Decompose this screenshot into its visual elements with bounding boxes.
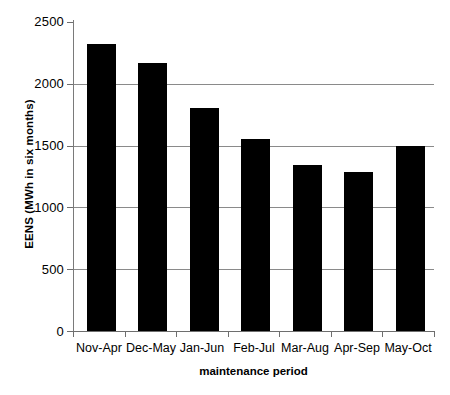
bar-mar-aug [293,165,322,331]
x-category-label-nov-apr: Nov-Apr [73,341,125,355]
x-axis-line [73,331,435,332]
y-tick-label-1000-wrap: 1000 [16,201,64,214]
x-tick-mark-1 [125,331,126,337]
plot-area [73,22,434,331]
x-tick-mark-3 [228,331,229,337]
x-category-label-dec-may: Dec-May [125,341,177,355]
x-tick-mark-4 [279,331,280,337]
bar-jan-jun [190,108,219,331]
x-category-label-may-oct: May-Oct [382,341,434,355]
bar-feb-jul [241,139,270,331]
y-tick-label-500-wrap: 500 [16,263,64,276]
bar-chart-figure: EENS (MWh in six months) 2500 2000 1500 … [0,0,450,395]
bar-nov-apr [87,44,116,331]
y-tick-label-2500-wrap: 2500 [16,15,64,28]
x-tick-mark-0 [73,331,74,337]
x-tick-mark-2 [176,331,177,337]
y-tick-label-500: 500 [20,263,64,276]
y-tick-label-2000-wrap: 2000 [16,77,64,90]
y-tick-label-2000: 2000 [20,77,64,90]
x-tick-mark-5 [331,331,332,337]
bar-dec-may [138,63,167,331]
x-tick-mark-6 [382,331,383,337]
bar-apr-sep [344,172,373,331]
y-tick-label-1500: 1500 [20,139,64,152]
y-tick-label-1000: 1000 [20,201,64,214]
x-category-label-mar-aug: Mar-Aug [279,341,331,355]
x-category-label-jan-jun: Jan-Jun [176,341,228,355]
y-tick-label-0: 0 [20,325,64,338]
x-tick-mark-7 [434,331,435,337]
x-category-label-apr-sep: Apr-Sep [331,341,383,355]
y-tick-label-2500: 2500 [20,15,64,28]
x-axis-title: maintenance period [73,365,434,377]
figure-caption [73,387,443,395]
y-axis-title: EENS (MWh in six months) [23,79,35,269]
y-tick-label-1500-wrap: 1500 [16,139,64,152]
x-category-label-feb-jul: Feb-Jul [228,341,280,355]
y-tick-label-0-wrap: 0 [16,325,64,338]
bar-may-oct [396,146,425,331]
